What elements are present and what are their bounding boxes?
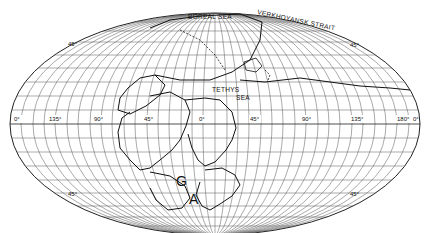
equator-label: 45° bbox=[250, 116, 260, 122]
label-g: G bbox=[176, 173, 187, 189]
equator-label: 0° bbox=[413, 116, 419, 122]
lat-label-nw: 45° bbox=[68, 41, 78, 47]
map-labels: BOREAL SEA VERKHOYANSK STRAIT TETHYS SEA… bbox=[13, 8, 419, 207]
equator-label: 135° bbox=[351, 116, 364, 122]
equator-label: 180° bbox=[397, 116, 410, 122]
label-tethys-sea: SEA bbox=[236, 94, 250, 101]
equator-label: 0° bbox=[199, 116, 205, 122]
equator-label: 135° bbox=[49, 116, 62, 122]
lat-label-sw: 45° bbox=[68, 191, 78, 197]
lat-label-ne: 45° bbox=[350, 42, 360, 48]
label-verkhoyansk-strait: VERKHOYANSK STRAIT bbox=[257, 8, 336, 31]
equator-label: 90° bbox=[302, 116, 312, 122]
world-map: BOREAL SEA VERKHOYANSK STRAIT TETHYS SEA… bbox=[0, 0, 430, 233]
label-a: A bbox=[189, 191, 199, 207]
equator-label: 0° bbox=[14, 116, 20, 122]
label-tethys: TETHYS bbox=[212, 86, 240, 93]
lat-label-se: 45° bbox=[350, 191, 360, 197]
equator-labels: 0° 135° 90° 45° 0° 45° 90° 135° 180° 0° bbox=[13, 115, 419, 123]
equator-label: 45° bbox=[144, 116, 154, 122]
equator-label: 90° bbox=[94, 116, 104, 122]
label-boreal-sea: BOREAL SEA bbox=[188, 13, 232, 20]
graticule bbox=[0, 13, 430, 233]
